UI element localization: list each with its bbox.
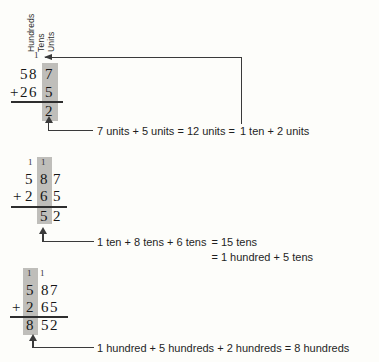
step2-plus-sign: + <box>13 189 21 204</box>
step3-annotation-text: 1 hundred + 5 hundreds + 2 hundreds = 8 … <box>97 341 349 355</box>
step2-addend1-hundreds: 5 <box>25 172 33 187</box>
step2-annotation-eq2: = 1 hundred + 5 tens <box>211 250 313 265</box>
step2-addend1-units: 7 <box>53 172 61 187</box>
step2-annotation-equations: = 15 tens = 1 hundred + 5 tens <box>211 235 313 265</box>
step1-annotation-target: 1 ten + 2 units <box>240 124 309 138</box>
step1-plus-sign: + <box>10 85 18 100</box>
step2-addend1-tens: 8 <box>40 172 48 187</box>
step1-addend1-prefix: 58 <box>20 67 38 82</box>
step1-annotation-target-text: 1 ten + 2 units <box>240 125 309 137</box>
step3-sum-line <box>10 316 68 318</box>
step3-result-hundred: 8 <box>26 318 34 333</box>
column-label-units: Units <box>46 32 56 52</box>
step1-addend2-prefix: 26 <box>20 85 38 100</box>
step3-annotation: 1 hundred + 5 hundreds + 2 hundreds = 8 … <box>97 341 349 355</box>
step2-result-tens: 5 <box>40 209 48 224</box>
column-addition-diagram: Hundreds Tens Units 1 58 7 + 26 5 2 7 un… <box>0 0 379 362</box>
step2-annotation-lhs: 1 ten + 8 tens + 6 tens <box>97 235 206 250</box>
step1-pointer-horizontal-line <box>48 130 93 132</box>
step1-carry-digit: 1 <box>34 51 39 60</box>
step3-pointer-horizontal-line <box>33 347 94 349</box>
step2-carry-tens-digit: 1 <box>41 158 46 167</box>
step3-result-rest: 52 <box>41 318 59 333</box>
carry-loop-arrowhead-icon <box>44 54 52 60</box>
step3-carry-hundreds-digit: 1 <box>27 269 32 278</box>
step2-addend2-hundreds: 2 <box>25 189 33 204</box>
step2-pointer-horizontal-line <box>43 241 94 243</box>
step3-carry-tens-digit: 1 <box>40 269 45 278</box>
step1-annotation-prefix: 7 units + 5 units = 12 units = <box>97 124 235 138</box>
step2-annotation: 1 ten + 8 tens + 6 tens = 15 tens = 1 hu… <box>97 235 313 265</box>
column-label-hundreds: Hundreds <box>26 14 36 52</box>
step3-addend1-rest: 87 <box>41 283 59 298</box>
step2-addend2-units: 5 <box>53 189 61 204</box>
step2-result-units: 2 <box>53 209 61 224</box>
step2-carry-hundreds-digit: 1 <box>28 158 33 167</box>
step3-addend1-hundred: 5 <box>26 283 34 298</box>
step3-plus-sign: + <box>12 300 20 315</box>
step1-annotation: 7 units + 5 units = 12 units = 1 ten + 2… <box>97 124 309 138</box>
step2-addend2-tens: 6 <box>40 189 48 204</box>
carry-loop-arrow <box>45 57 242 124</box>
step3-addend2-rest: 65 <box>41 300 59 315</box>
step3-addend2-hundred: 2 <box>26 300 34 315</box>
step2-annotation-eq1: = 15 tens <box>211 235 313 250</box>
